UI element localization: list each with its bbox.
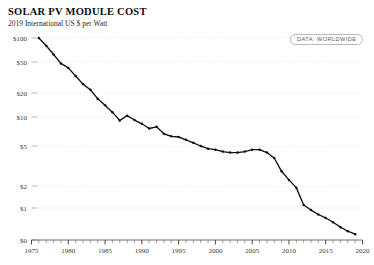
x-axis-tick-label: 2010 — [282, 247, 297, 255]
series-data-point — [45, 44, 48, 47]
x-axis-tick-label: 2020 — [356, 247, 371, 255]
series-data-point — [185, 139, 188, 142]
series-data-point — [317, 213, 320, 216]
series-data-point — [236, 151, 239, 154]
series-data-point — [302, 204, 305, 207]
series-data-point — [96, 97, 99, 100]
y-axis-tick-label: $0 — [20, 237, 28, 245]
series-data-point — [266, 151, 269, 154]
series-data-point — [38, 37, 41, 40]
series-data-point — [258, 148, 261, 151]
series-data-point — [163, 133, 166, 136]
y-axis-tick-label: $2 — [20, 183, 28, 191]
series-data-point — [332, 221, 335, 224]
series-data-point — [52, 53, 55, 56]
series-data-point — [295, 186, 298, 189]
chart-plot-area: $100$50$20$10$5$2$1$01975198019851990199… — [0, 0, 374, 265]
y-axis-tick-label: $5 — [20, 143, 28, 151]
y-axis-tick-label: $100 — [13, 35, 28, 43]
series-data-point — [60, 62, 63, 65]
y-axis-tick-label: $1 — [20, 205, 28, 213]
series-data-point — [170, 135, 173, 138]
series-data-point — [251, 148, 254, 151]
series-data-point — [148, 127, 151, 130]
y-axis-tick-label: $20 — [17, 90, 28, 98]
series-data-point — [89, 89, 92, 92]
x-axis-tick-label: 1995 — [172, 247, 187, 255]
series-data-point — [126, 114, 128, 117]
series-data-point — [244, 150, 247, 153]
series-data-point — [133, 119, 136, 122]
x-axis-tick-label: 2005 — [245, 247, 260, 255]
series-data-point — [347, 230, 350, 233]
series-data-point — [310, 209, 313, 212]
series-data-point — [74, 75, 77, 78]
series-data-point — [192, 142, 195, 145]
series-data-point — [199, 145, 202, 148]
series-data-point — [177, 136, 180, 139]
x-axis-tick-label: 1985 — [98, 247, 113, 255]
series-data-point — [119, 119, 122, 122]
series-data-point — [214, 148, 217, 151]
series-data-point — [354, 233, 357, 236]
y-axis-tick-label: $50 — [17, 59, 28, 67]
x-axis-tick-label: 2015 — [319, 247, 334, 255]
series-data-point — [273, 157, 276, 160]
series-data-point — [280, 170, 283, 173]
series-data-point — [207, 147, 210, 150]
series-data-point — [141, 123, 144, 126]
series-data-point — [82, 83, 85, 86]
chart-figure: SOLAR PV MODULE COST 2019 International … — [0, 0, 374, 265]
x-axis-tick-label: 1975 — [25, 247, 40, 255]
y-axis-tick-label: $10 — [17, 114, 28, 122]
x-axis-tick-label: 1980 — [61, 247, 76, 255]
series-data-point — [324, 217, 327, 220]
x-axis-tick-label: 2000 — [208, 247, 223, 255]
series-line-solar-pv-cost — [39, 38, 355, 234]
x-axis-tick-label: 1990 — [135, 247, 150, 255]
series-data-point — [229, 151, 232, 154]
series-data-point — [221, 150, 224, 153]
series-data-point — [67, 67, 70, 70]
series-data-point — [111, 111, 114, 114]
series-data-point — [104, 104, 107, 107]
series-data-point — [288, 179, 291, 182]
series-data-point — [155, 126, 158, 129]
series-data-point — [339, 226, 342, 229]
